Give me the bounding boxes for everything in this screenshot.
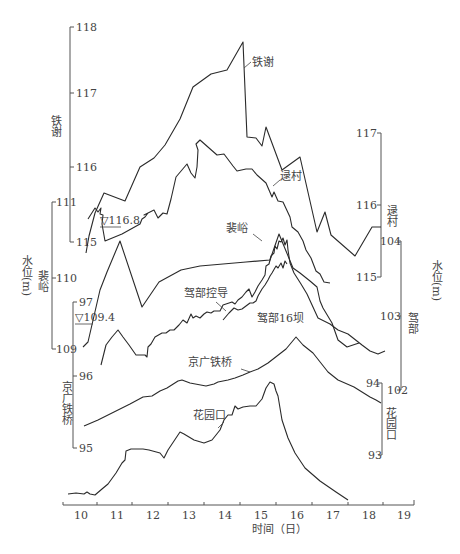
curve-jiabu-kongdao bbox=[101, 238, 385, 365]
tick-huayuankou-93: 93 bbox=[368, 449, 382, 462]
x-tick-14: 14 bbox=[218, 509, 232, 522]
tick-tiexie-116: 116 bbox=[76, 161, 97, 174]
x-tick-15: 15 bbox=[254, 509, 268, 522]
label-jingguang: 京广铁桥 bbox=[188, 355, 232, 369]
label-jiabu-16ba: 驾部16坝 bbox=[257, 311, 304, 325]
tick-lucun-116: 116 bbox=[356, 199, 377, 212]
curve-huayuankou bbox=[68, 382, 348, 500]
x-tick-13: 13 bbox=[182, 509, 196, 522]
tick-jiabu-103: 103 bbox=[380, 310, 401, 323]
label-huayuankou: 花园口 bbox=[193, 409, 226, 422]
axis-tiexie: 118 117 116 115 铁谢 bbox=[49, 21, 98, 249]
x-tick-19: 19 bbox=[397, 509, 411, 522]
tick-jingguang-95: 95 bbox=[79, 442, 93, 455]
axis-jiabu: 104 103 102 驾部 水位(m) bbox=[380, 235, 444, 397]
station-label-tiexie: 铁谢 bbox=[49, 115, 63, 137]
axis-peiyu: 111 110 109 裴峪 水位(m) bbox=[20, 196, 78, 356]
station-label-lucun: 逯村 bbox=[385, 205, 399, 227]
x-tick-16: 16 bbox=[290, 509, 304, 522]
tick-jiabu-104: 104 bbox=[380, 235, 401, 248]
x-tick-18: 18 bbox=[362, 509, 376, 522]
tick-jiabu-102: 102 bbox=[387, 384, 408, 397]
label-tiexie: 铁谢 bbox=[252, 55, 274, 69]
tick-huayuankou-94: 94 bbox=[366, 377, 380, 390]
x-axis: 10 11 12 13 14 15 16 17 18 19 时间（日） bbox=[63, 500, 414, 536]
y-axis-label-left: 水位(m) bbox=[20, 255, 34, 296]
tick-tiexie-118: 118 bbox=[76, 21, 97, 34]
tick-lucun-117: 117 bbox=[356, 127, 377, 140]
station-label-jiabu: 驾部 bbox=[406, 312, 420, 334]
x-tick-17: 17 bbox=[326, 509, 340, 522]
water-level-chart: 118 117 116 115 铁谢 111 110 109 裴峪 水位(m) … bbox=[0, 0, 460, 554]
x-tick-11: 11 bbox=[110, 509, 124, 522]
station-label-huayuankou: 花园口 bbox=[384, 407, 398, 440]
x-tick-10: 10 bbox=[74, 509, 88, 522]
warning-level-peiyu: ▽109.4 bbox=[75, 311, 115, 324]
tick-peiyu-109: 109 bbox=[56, 343, 77, 356]
tick-jingguang-97: 97 bbox=[79, 296, 93, 309]
tick-peiyu-110: 110 bbox=[56, 272, 77, 285]
tick-lucun-115: 115 bbox=[356, 271, 377, 284]
x-tick-12: 12 bbox=[146, 509, 160, 522]
label-jiabu-kongdao: 驾部控导 bbox=[184, 286, 228, 300]
label-peiyu: 裴峪 bbox=[226, 221, 248, 235]
tick-jingguang-96: 96 bbox=[79, 370, 93, 383]
tick-tiexie-117: 117 bbox=[76, 87, 97, 100]
label-lucun: 逯村 bbox=[280, 169, 302, 183]
axis-lucun: 117 116 115 逯村 bbox=[356, 127, 399, 284]
x-axis-label: 时间（日） bbox=[252, 523, 307, 536]
tick-peiyu-111: 111 bbox=[56, 196, 77, 209]
station-label-peiyu: 裴峪 bbox=[36, 269, 50, 293]
station-label-jingguang: 京广铁桥 bbox=[60, 380, 74, 426]
y-axis-label-right: 水位(m) bbox=[430, 260, 444, 301]
warning-level-lucun: ▽116.8 bbox=[100, 214, 140, 227]
